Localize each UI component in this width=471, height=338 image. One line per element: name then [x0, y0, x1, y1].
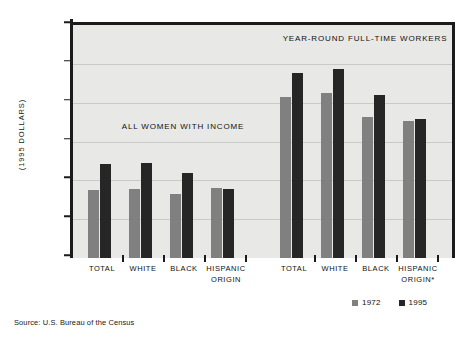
bar-1972-allwomen-white	[129, 189, 140, 258]
annotation-year-round: YEAR-ROUND FULL-TIME WORKERS	[281, 33, 449, 44]
x-tick-3	[204, 255, 206, 262]
source-note: Source: U.S. Bureau of the Census	[14, 318, 134, 327]
x-label-fulltime-black: BLACK	[362, 263, 389, 274]
bar-1995-fulltime-hispanic	[415, 119, 426, 258]
bar-1995-fulltime-black	[374, 95, 385, 258]
bar-1995-fulltime-total	[292, 73, 303, 258]
x-label-fulltime-white: WHITE	[322, 263, 349, 274]
x-tick-5	[314, 255, 316, 262]
legend-label-1995: 1995	[409, 298, 428, 307]
x-tick-7	[396, 255, 398, 262]
x-tick-6	[355, 255, 357, 262]
legend-swatch-1995-icon	[399, 300, 405, 306]
x-label-fulltime-total: TOTAL	[281, 263, 307, 274]
bar-1972-fulltime-white	[321, 93, 332, 258]
x-label-line1: BLACK	[170, 264, 197, 273]
gridline-10000	[73, 180, 452, 181]
bar-1972-allwomen-total	[88, 190, 99, 258]
bar-1995-allwomen-total	[100, 164, 111, 258]
bar-1972-fulltime-black	[362, 117, 373, 258]
bar-1972-allwomen-black	[170, 194, 181, 259]
legend-item-1995: 1995	[399, 298, 428, 307]
chart-legend: 1972 1995	[352, 298, 427, 307]
annotation-year-round-line1: YEAR-ROUND	[283, 34, 345, 43]
annotation-all-women: ALL WOMEN WITH INCOME	[103, 121, 263, 132]
x-label-line1: HISPANIC	[206, 264, 245, 273]
x-label-line2: ORIGIN*	[398, 274, 437, 285]
bar-1972-fulltime-total	[280, 97, 291, 259]
legend-label-1972: 1972	[362, 298, 381, 307]
x-label-line1: WHITE	[130, 264, 157, 273]
chart-figure: (1995 DOLLARS) 30,000 25,000 20,000 15,0…	[0, 0, 471, 338]
x-tick-1	[122, 255, 124, 262]
x-label-line1: HISPANIC	[398, 264, 437, 273]
x-label-fulltime-hispanic: HISPANIC ORIGIN*	[398, 263, 437, 285]
bar-1995-allwomen-black	[182, 173, 193, 258]
annotation-year-round-line2: FULL-TIME WORKERS	[348, 34, 447, 43]
bar-1995-fulltime-white	[333, 69, 344, 259]
bar-1995-allwomen-hispanic	[223, 189, 234, 258]
gridline-25000	[73, 64, 452, 65]
x-label-allwomen-hispanic: HISPANIC ORIGIN	[206, 263, 245, 285]
x-label-allwomen-total: TOTAL	[89, 263, 115, 274]
x-label-line2: ORIGIN	[206, 274, 245, 285]
x-label-line1: WHITE	[322, 264, 349, 273]
plot-area: ALL WOMEN WITH INCOME YEAR-ROUND FULL-TI…	[73, 22, 455, 258]
bar-1972-allwomen-hispanic	[211, 188, 222, 258]
x-label-line1: BLACK	[362, 264, 389, 273]
gridline-15000	[73, 142, 452, 143]
x-tick-8	[437, 255, 439, 262]
x-label-line1: TOTAL	[281, 264, 307, 273]
gridline-20000	[73, 103, 452, 104]
bar-1995-allwomen-white	[141, 163, 152, 259]
x-label-allwomen-black: BLACK	[170, 263, 197, 274]
x-label-line1: TOTAL	[89, 264, 115, 273]
y-axis-title: (1995 DOLLARS)	[17, 70, 26, 200]
legend-item-1972: 1972	[352, 298, 381, 307]
x-tick-4	[245, 255, 247, 262]
x-label-allwomen-white: WHITE	[130, 263, 157, 274]
bar-1972-fulltime-hispanic	[403, 121, 414, 258]
legend-swatch-1972-icon	[352, 300, 358, 306]
x-tick-2	[163, 255, 165, 262]
